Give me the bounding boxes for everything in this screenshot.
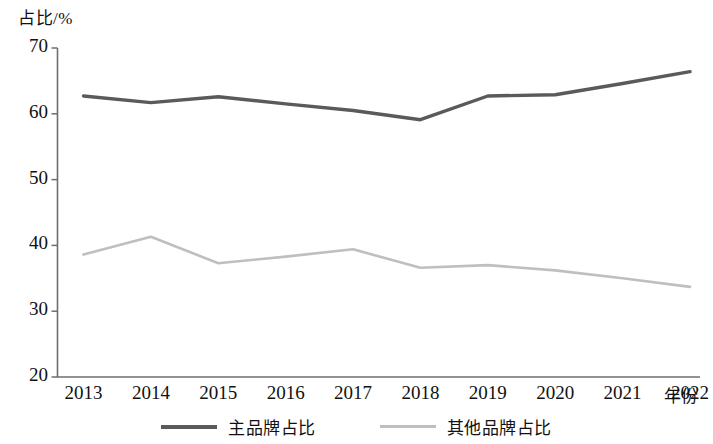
x-tick-label: 2015	[185, 382, 251, 404]
data-series-group	[84, 72, 691, 287]
plot-area	[0, 0, 713, 444]
legend-swatch-main-brand	[161, 425, 217, 429]
y-tick-label: 40	[8, 232, 48, 254]
y-tick-label: 70	[8, 35, 48, 57]
x-tick-label: 2018	[387, 382, 453, 404]
chart-legend: 主品牌占比 其他品牌占比	[0, 414, 713, 439]
legend-item-main-brand: 主品牌占比	[161, 414, 316, 439]
x-tick-label: 2021	[590, 382, 656, 404]
x-tick-label: 2013	[51, 382, 117, 404]
x-tick-label: 2022	[657, 382, 713, 404]
legend-label-other-brands: 其他品牌占比	[447, 414, 552, 439]
y-tick-label: 30	[8, 298, 48, 320]
legend-swatch-other-brands	[380, 425, 436, 428]
x-tick-label: 2017	[320, 382, 386, 404]
x-tick-label: 2020	[522, 382, 588, 404]
legend-label-main-brand: 主品牌占比	[228, 414, 316, 439]
axis-lines	[57, 48, 700, 377]
y-tick-label: 20	[8, 364, 48, 386]
x-tick-label: 2014	[118, 382, 184, 404]
series-line-main-brand	[84, 72, 691, 120]
y-axis-ticks	[52, 48, 58, 377]
legend-item-other-brands: 其他品牌占比	[380, 414, 552, 439]
series-line-other-brands	[84, 237, 691, 287]
y-tick-label: 50	[8, 167, 48, 189]
x-tick-label: 2019	[455, 382, 521, 404]
x-tick-label: 2016	[253, 382, 319, 404]
y-tick-label: 60	[8, 101, 48, 123]
line-chart: 占比/% 年份 706050403020 2013201420152016201…	[0, 0, 713, 444]
